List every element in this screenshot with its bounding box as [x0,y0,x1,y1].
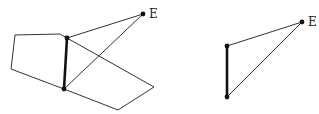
left-quad-face [64,38,154,110]
left-vertex-top [65,36,70,41]
right-edge-top-to-E [227,22,302,46]
left-vertex-E [141,12,146,17]
left-vertex-bottom [62,87,67,92]
left-edge-bottom-to-E [64,14,143,89]
left-bold-edge [64,38,67,89]
right-label-E: E [308,15,317,29]
pyramid-diagram: E E [0,0,319,114]
right-vertex-E [300,20,305,25]
right-vertex-bottom [225,95,230,100]
left-figure: E [11,7,158,110]
left-edge-top-to-E [67,14,143,38]
right-edge-bottom-to-E [227,22,302,97]
right-vertex-top [225,44,230,49]
right-figure: E [225,15,317,99]
left-label-E: E [149,7,158,21]
left-pentagon-face [11,34,67,89]
